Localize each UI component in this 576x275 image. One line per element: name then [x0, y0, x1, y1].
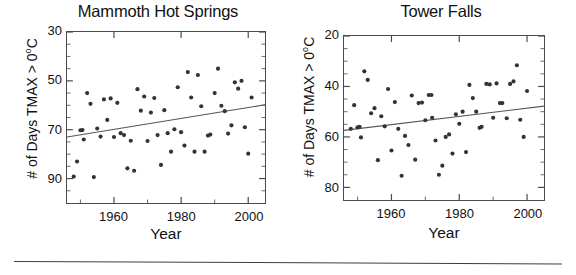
data-point	[467, 83, 471, 87]
data-point	[246, 152, 250, 156]
x-tick-label: 1960	[88, 209, 138, 224]
data-point	[413, 158, 417, 162]
data-point	[410, 93, 414, 97]
data-point	[216, 67, 220, 71]
data-point	[359, 135, 363, 139]
data-point	[488, 82, 492, 86]
data-point	[474, 110, 478, 114]
data-point	[223, 109, 227, 113]
y-tick-label: 20	[309, 27, 339, 42]
data-point	[396, 127, 400, 131]
data-point	[92, 175, 96, 179]
y-tick-label: 80	[309, 180, 339, 195]
x-tick-label: 2000	[224, 209, 274, 224]
x-axis-label-tower: Year	[343, 224, 545, 242]
data-point	[109, 96, 113, 100]
x-axis-label-mammoth: Year	[66, 225, 266, 243]
data-point	[400, 174, 404, 178]
data-point	[515, 63, 519, 67]
data-point	[145, 139, 149, 143]
panel-tower-falls: Tower Falls # of Days TMAX > 0oC Year 80…	[288, 0, 576, 250]
data-point	[159, 163, 163, 167]
data-point	[423, 118, 427, 122]
y-tick-label: 60	[309, 129, 339, 144]
data-point	[115, 101, 119, 105]
y-tick-label: 50	[32, 72, 62, 87]
data-point	[75, 159, 79, 163]
data-point	[176, 85, 180, 89]
data-point	[226, 132, 230, 136]
data-point	[208, 133, 212, 137]
data-point	[430, 116, 434, 120]
data-point	[372, 106, 376, 110]
data-point	[80, 128, 84, 132]
data-point	[135, 87, 139, 91]
data-point	[102, 97, 106, 101]
plot-area-tower	[343, 35, 545, 201]
y-tick-label: 40	[309, 78, 339, 93]
data-point	[98, 134, 102, 138]
x-tick-label: 1980	[434, 206, 484, 221]
data-point	[444, 135, 448, 139]
data-point	[429, 93, 433, 97]
scatter-canvas-mammoth	[67, 32, 265, 203]
data-point	[156, 133, 160, 137]
data-point	[172, 127, 176, 131]
data-point	[236, 87, 240, 91]
data-point	[192, 150, 196, 154]
plot-area-mammoth	[66, 31, 266, 204]
data-point	[518, 118, 522, 122]
y-axis-label-tower: # of Days TMAX > 0oC	[300, 22, 317, 192]
data-point	[369, 111, 373, 115]
data-point	[196, 73, 200, 77]
data-point	[239, 79, 243, 83]
data-point	[229, 123, 233, 127]
data-point	[511, 79, 515, 83]
data-point	[461, 110, 465, 114]
panel-mammoth-hot-springs: Mammoth Hot Springs # of Days TMAX > 0oC…	[0, 0, 290, 250]
data-point	[169, 150, 173, 154]
panel-title-mammoth: Mammoth Hot Springs	[0, 2, 290, 21]
data-point	[500, 101, 504, 105]
data-point	[480, 125, 484, 129]
data-point	[243, 125, 247, 129]
scatter-canvas-tower	[344, 36, 544, 200]
x-tick-label: 2000	[503, 206, 553, 221]
data-point	[433, 138, 437, 142]
data-point	[139, 109, 143, 113]
data-point	[219, 104, 223, 108]
data-point	[386, 87, 390, 91]
data-point	[376, 158, 380, 162]
data-point	[189, 95, 193, 99]
data-point	[362, 69, 366, 73]
data-point	[525, 89, 529, 93]
data-point	[383, 124, 387, 128]
data-point	[112, 135, 116, 139]
data-point	[249, 95, 253, 99]
x-tick-label: 1980	[156, 209, 206, 224]
degree-superscript: o	[300, 47, 310, 52]
data-point	[457, 122, 461, 126]
data-point	[522, 135, 526, 139]
data-point	[366, 78, 370, 82]
data-point	[85, 91, 89, 95]
data-point	[82, 137, 86, 141]
data-point	[379, 114, 383, 118]
data-point	[125, 166, 129, 170]
y-axis-label-mammoth: # of Days TMAX > 0oC	[23, 21, 40, 196]
data-point	[149, 111, 153, 115]
data-point	[142, 94, 146, 98]
data-point	[179, 130, 183, 134]
data-point	[72, 175, 76, 179]
data-point	[440, 164, 444, 168]
data-point	[95, 126, 99, 130]
data-point	[406, 143, 410, 147]
data-point	[233, 80, 237, 84]
data-point	[389, 148, 393, 152]
data-point	[162, 108, 166, 112]
data-point	[450, 152, 454, 156]
y-tick-label: 30	[32, 23, 62, 38]
data-point	[471, 96, 475, 100]
y-tick-label: 90	[32, 171, 62, 186]
data-point	[132, 169, 136, 173]
